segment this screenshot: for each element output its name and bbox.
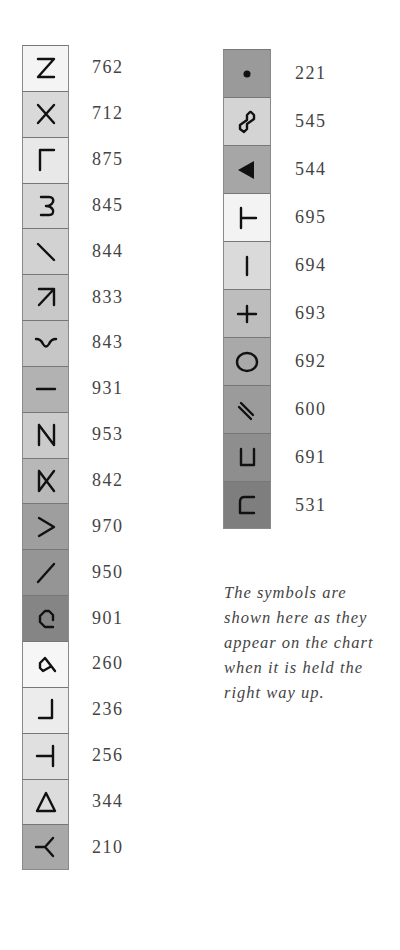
symbol-code: 693 — [295, 303, 327, 324]
loop-6-icon — [31, 649, 61, 679]
symbol-code: 762 — [92, 57, 124, 78]
symbol-cell — [223, 433, 271, 481]
symbol-cell — [22, 687, 69, 733]
symbol-cell — [22, 595, 69, 641]
symbol-cell — [223, 337, 271, 385]
symbol-row: 344 — [22, 779, 69, 825]
symbol-cell — [22, 45, 69, 91]
U-square-icon — [232, 443, 262, 473]
N-icon — [31, 420, 61, 450]
L-icon — [31, 145, 61, 175]
symbol-cell — [22, 91, 69, 137]
symbol-row: 236 — [22, 687, 69, 733]
symbol-cell — [22, 137, 69, 183]
symbol-cell — [22, 824, 69, 870]
symbol-code: 210 — [92, 837, 124, 858]
symbol-row: 600 — [223, 385, 271, 433]
symbol-row: 970 — [22, 503, 69, 549]
symbol-code: 844 — [92, 241, 124, 262]
symbol-cell — [223, 289, 271, 337]
arrow-up-right-icon — [31, 283, 61, 313]
symbol-code: 953 — [92, 424, 124, 445]
symbol-code: 970 — [92, 516, 124, 537]
symbol-cell — [22, 641, 69, 687]
T-rotated-icon — [232, 203, 262, 233]
circle-outline-icon — [232, 347, 262, 377]
symbol-row: 691 — [223, 433, 271, 481]
symbol-code: 221 — [295, 63, 327, 84]
symbol-row: 762 — [22, 45, 69, 91]
symbol-cell — [223, 193, 271, 241]
symbol-row: 833 — [22, 274, 69, 320]
symbol-code: 691 — [295, 447, 327, 468]
symbol-cell — [22, 733, 69, 779]
octagon-S-icon — [232, 107, 262, 137]
symbol-code: 544 — [295, 159, 327, 180]
Z-icon — [31, 53, 61, 83]
symbol-code: 256 — [92, 745, 124, 766]
symbol-code: 931 — [92, 378, 124, 399]
symbol-code: 260 — [92, 653, 124, 674]
symbol-code: 712 — [92, 103, 124, 124]
symbol-code: 236 — [92, 699, 124, 720]
symbol-cell — [223, 97, 271, 145]
symbol-row: 844 — [22, 228, 69, 274]
symbol-cell — [22, 779, 69, 825]
symbol-code: 833 — [92, 287, 124, 308]
symbol-cell — [223, 481, 271, 529]
symbol-code: 344 — [92, 791, 124, 812]
symbol-code: 842 — [92, 470, 124, 491]
symbol-row: 953 — [22, 412, 69, 458]
symbol-code: 531 — [295, 495, 327, 516]
symbol-cell — [22, 503, 69, 549]
symbol-row: 843 — [22, 320, 69, 366]
symbol-row: 845 — [22, 183, 69, 229]
vertical-bar-icon — [232, 251, 262, 281]
symbol-row: 695 — [223, 193, 271, 241]
left-symbol-column: 7627128758458448338439319538429709509012… — [22, 45, 69, 870]
symbol-cell — [22, 458, 69, 504]
double-slash-icon — [232, 395, 262, 425]
symbol-row: 842 — [22, 458, 69, 504]
symbol-row: 901 — [22, 595, 69, 641]
slash-icon — [31, 558, 61, 588]
symbol-cell — [22, 320, 69, 366]
symbol-row: 692 — [223, 337, 271, 385]
symbol-code: 600 — [295, 399, 327, 420]
octagon-c-icon — [31, 604, 61, 634]
orientation-note: The symbols are shown here as they appea… — [224, 580, 394, 705]
symbol-code: 545 — [295, 111, 327, 132]
filled-triangle-left-icon — [232, 155, 262, 185]
reverse-L-icon — [31, 695, 61, 725]
symbol-code: 843 — [92, 332, 124, 353]
symbol-row: 693 — [223, 289, 271, 337]
symbol-cell — [223, 145, 271, 193]
Y-rotated-icon — [31, 832, 61, 862]
symbol-row: 712 — [22, 91, 69, 137]
symbol-row: 256 — [22, 733, 69, 779]
symbol-cell — [22, 228, 69, 274]
X-icon — [31, 99, 61, 129]
C-square-icon — [232, 490, 262, 520]
symbol-row: 875 — [22, 137, 69, 183]
plus-icon — [232, 299, 262, 329]
symbol-row: 931 — [22, 366, 69, 412]
symbol-row: 210 — [22, 824, 69, 870]
symbol-cell — [223, 385, 271, 433]
omega-rotated-icon — [31, 191, 61, 221]
symbol-code: 692 — [295, 351, 327, 372]
symbol-row: 694 — [223, 241, 271, 289]
right-symbol-column: 221545544695694693692600691531 — [223, 49, 271, 529]
symbol-cell — [22, 549, 69, 595]
symbol-cell — [22, 412, 69, 458]
dash-icon — [31, 374, 61, 404]
symbol-code: 845 — [92, 195, 124, 216]
symbol-code: 901 — [92, 608, 124, 629]
greater-than-icon — [31, 512, 61, 542]
symbol-code: 950 — [92, 562, 124, 583]
left-tack-icon — [31, 741, 61, 771]
backslash-icon — [31, 237, 61, 267]
symbol-code: 694 — [295, 255, 327, 276]
symbol-code: 875 — [92, 149, 124, 170]
symbol-row: 531 — [223, 481, 271, 529]
